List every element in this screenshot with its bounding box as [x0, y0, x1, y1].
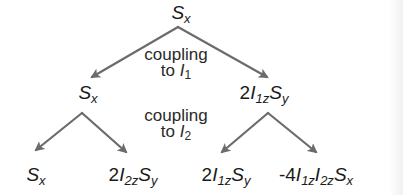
term-coefficient: 2: [109, 164, 120, 185]
spin-index: 1: [184, 68, 191, 82]
level2-term-4i1zi2zsx: -4I1zI2zSx: [279, 165, 353, 184]
level2-term-sx: Sx: [26, 165, 45, 184]
term-coefficient: 2: [202, 164, 213, 185]
term-subscript: y: [151, 173, 158, 188]
term-base: S: [26, 164, 39, 185]
arrow-sx-to-2i2zsy: [82, 113, 126, 152]
term-subscript: 1z: [301, 173, 315, 188]
arrow-2i1zsy-to-2i1zsy: [222, 113, 268, 152]
term-coefficient: 2: [240, 82, 251, 103]
term-subscript: 1z: [217, 173, 231, 188]
spin-index: 2: [184, 129, 191, 143]
term-subscript: 2z: [320, 173, 334, 188]
term-subscript: x: [39, 173, 46, 188]
coupling-note-i1: coupling to I1: [144, 47, 207, 79]
to-label: to: [161, 122, 180, 141]
term-base: S: [269, 82, 282, 103]
coupling-note-i2: coupling to I2: [144, 108, 207, 140]
term-base: S: [138, 164, 151, 185]
term-coefficient: -4: [279, 164, 296, 185]
arrow-2i1zsy-to-4i1zi2zsx: [268, 113, 316, 152]
term-subscript: 1z: [255, 91, 269, 106]
level1-term-sx: Sx: [78, 83, 97, 102]
term-subscript: x: [91, 91, 98, 106]
level2-term-2i1zsy: 2I1zSy: [202, 165, 251, 184]
level1-term-2i1zsy: 2I1zSy: [240, 83, 289, 102]
term-subscript: x: [184, 11, 191, 26]
term-base: S: [231, 164, 244, 185]
term-subscript: y: [282, 91, 289, 106]
arrow-sx-to-sx: [36, 113, 82, 150]
coupling-target: to I2: [144, 124, 207, 140]
to-label: to: [161, 61, 180, 80]
term-subscript: 2z: [124, 173, 138, 188]
level2-term-2i2zsy: 2I2zSy: [109, 165, 158, 184]
coupling-target: to I1: [144, 63, 207, 79]
term-base: S: [171, 2, 184, 23]
term-base: S: [78, 82, 91, 103]
term-base: S: [334, 164, 347, 185]
term-subscript: y: [244, 173, 251, 188]
root-term-sx: Sx: [171, 3, 190, 22]
term-subscript: x: [347, 173, 354, 188]
